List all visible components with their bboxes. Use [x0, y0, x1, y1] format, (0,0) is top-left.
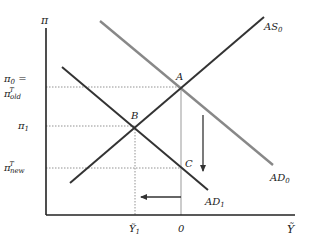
pi-old-label: πTold [3, 86, 21, 101]
ad0-main: AD [269, 172, 285, 183]
pi-new-label: πTnew [3, 160, 25, 175]
ad0-sub: 0 [285, 177, 290, 185]
as0-label: AS0 [263, 21, 283, 34]
point-b-label: B [130, 110, 138, 121]
y1-sub: 1 [136, 228, 140, 236]
pi0-eq: = [15, 73, 27, 84]
zero-tick-label: 0 [178, 223, 185, 234]
pi1-label: π1 [17, 120, 29, 133]
point-a-label: A [175, 71, 183, 82]
ad0-curve [100, 21, 273, 165]
as0-curve [70, 17, 264, 183]
as0-sub: 0 [278, 26, 283, 34]
point-c-label: C [185, 158, 193, 169]
ad1-label: AD1 [204, 196, 225, 209]
pi0-label: π0 = [3, 73, 27, 86]
pi1-sub: 1 [25, 125, 29, 133]
as-ad-diagram: π Ỹ π0 = πTold π1 πTnew Ỹ1 0 A B C AS0 A… [0, 0, 311, 249]
ad0-label: AD0 [269, 172, 290, 185]
ad1-main: AD [204, 196, 220, 207]
ad1-sub: 1 [220, 201, 224, 209]
pi-new-sub: new [10, 167, 25, 175]
y1-tick-label: Ỹ1 [129, 223, 140, 236]
pi-old-sub: old [10, 93, 21, 101]
as0-main: AS [263, 21, 278, 32]
x-axis-label: Ỹ [287, 222, 296, 236]
y-axis-label: π [40, 14, 49, 27]
